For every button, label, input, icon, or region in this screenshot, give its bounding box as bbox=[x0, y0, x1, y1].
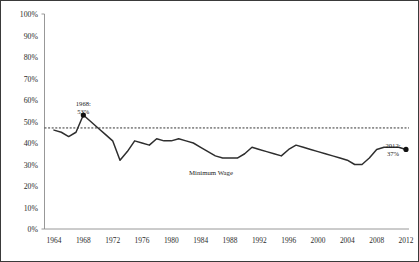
chart-canvas: 100% 90% 80% 70% 60% 50% 40% 30% 20% 10%… bbox=[1, 1, 419, 262]
annotation-peak-1968: 1968: 53% bbox=[76, 100, 91, 118]
x-tick-label-1976: 1976 bbox=[135, 236, 150, 245]
annotation-end-2012-line2: 37% bbox=[387, 150, 400, 157]
y-tick-label-10: 10% bbox=[24, 204, 39, 213]
x-tick-label-1988: 1988 bbox=[223, 236, 238, 245]
y-tick-label-40: 40% bbox=[24, 139, 39, 148]
x-tick-label-2004: 2004 bbox=[340, 236, 355, 245]
series-inline-label-minimum-wage: Minimum Wage bbox=[189, 169, 233, 176]
x-tick-label-1972: 1972 bbox=[105, 236, 120, 245]
x-tick-label-1996: 1996 bbox=[281, 236, 296, 245]
y-axis-tick-labels: 100% 90% 80% 70% 60% 50% 40% 30% 20% 10%… bbox=[20, 10, 39, 234]
data-point-marker-1968 bbox=[81, 112, 86, 117]
y-tick-label-80: 80% bbox=[24, 53, 39, 62]
data-point-marker-2012 bbox=[403, 147, 408, 152]
y-tick-label-0: 0% bbox=[28, 225, 39, 234]
minimum-wage-line-chart: 100% 90% 80% 70% 60% 50% 40% 30% 20% 10%… bbox=[0, 0, 419, 262]
x-tick-label-1992: 1992 bbox=[252, 236, 267, 245]
y-tick-label-20: 20% bbox=[24, 182, 39, 191]
series-line-minimum-wage bbox=[54, 115, 406, 164]
y-tick-label-100: 100% bbox=[20, 10, 39, 19]
y-tick-label-70: 70% bbox=[24, 75, 39, 84]
y-tick-label-90: 90% bbox=[24, 32, 39, 41]
annotation-peak-1968-line1: 1968: bbox=[76, 100, 91, 107]
y-tick-label-60: 60% bbox=[24, 96, 39, 105]
x-tick-label-2012: 2012 bbox=[399, 236, 414, 245]
x-tick-label-2008: 2008 bbox=[369, 236, 384, 245]
annotation-end-2012-line1: 2012: bbox=[385, 142, 400, 149]
x-tick-label-1984: 1984 bbox=[193, 236, 208, 245]
x-tick-label-1980: 1980 bbox=[164, 236, 179, 245]
annotation-end-2012: 2012: 37% bbox=[385, 142, 408, 157]
y-tick-label-30: 30% bbox=[24, 161, 39, 170]
x-tick-label-2000: 2000 bbox=[311, 236, 326, 245]
x-tick-label-1964: 1964 bbox=[47, 236, 62, 245]
x-axis-tick-labels: 1964 1968 1972 1976 1980 1984 1988 1992 … bbox=[47, 236, 414, 245]
y-tick-label-50: 50% bbox=[24, 118, 39, 127]
x-tick-label-1968: 1968 bbox=[76, 236, 91, 245]
